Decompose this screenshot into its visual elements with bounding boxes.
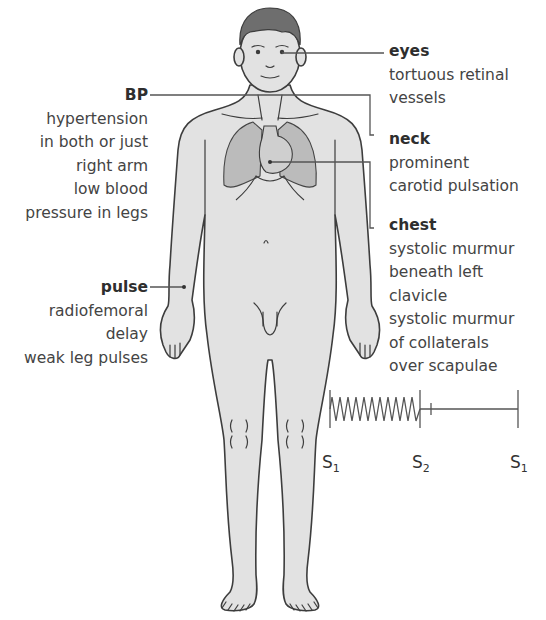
- pulse-annotation: pulse radiofemoral delay weak leg pulses: [24, 276, 148, 370]
- eyes-title: eyes: [389, 40, 509, 64]
- systolic-murmur-waveform: [330, 397, 420, 421]
- neck-title: neck: [389, 128, 519, 152]
- eyes-annotation: eyes tortuous retinal vessels: [389, 40, 509, 111]
- neck-annotation: neck prominent carotid pulsation: [389, 128, 519, 199]
- s1-label-end: S1: [510, 452, 528, 475]
- chest-annotation: chest systolic murmur beneath left clavi…: [389, 214, 514, 379]
- pulse-title: pulse: [24, 276, 148, 300]
- phonocardiogram: [330, 390, 518, 428]
- chest-title: chest: [389, 214, 514, 238]
- s2-label: S2: [412, 452, 430, 475]
- bp-title: BP: [25, 84, 148, 108]
- bp-annotation: BP hypertension in both or just right ar…: [25, 84, 148, 225]
- s1-label-start: S1: [322, 452, 340, 475]
